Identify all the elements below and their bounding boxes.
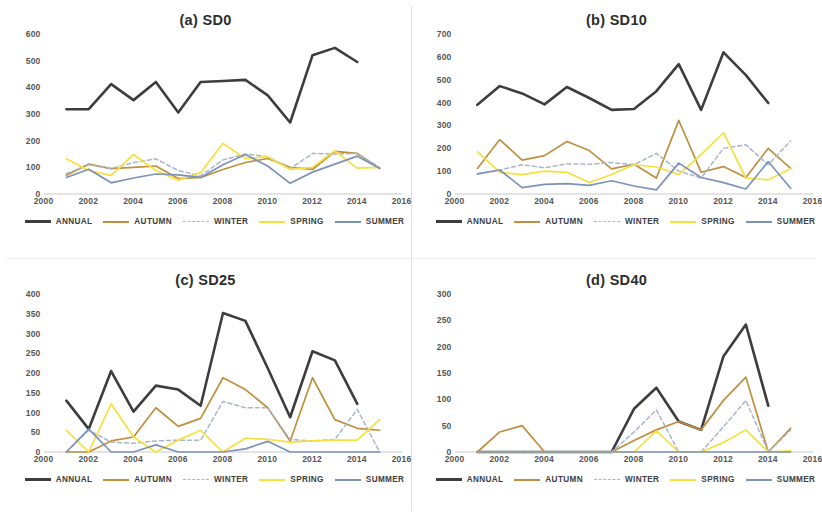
series-line-spring bbox=[477, 133, 790, 183]
x-axis-tick-label: 2008 bbox=[213, 196, 233, 206]
x-axis-tick-label: 2012 bbox=[713, 454, 733, 464]
legend-label: ANNUAL bbox=[467, 475, 504, 484]
y-axis-tick-label: 150 bbox=[437, 368, 452, 378]
x-axis-tick-label: 2010 bbox=[257, 196, 277, 206]
x-axis: 200020022004200620082010201220142016 bbox=[455, 194, 813, 210]
legend-item-annual[interactable]: ANNUAL bbox=[436, 475, 504, 484]
series-line-annual bbox=[477, 325, 768, 452]
legend-item-annual[interactable]: ANNUAL bbox=[25, 475, 93, 484]
legend: ANNUALAUTUMNWINTERSPRINGSUMMER bbox=[421, 217, 813, 226]
legend-item-winter[interactable]: WINTER bbox=[183, 217, 248, 226]
line-series-svg bbox=[44, 294, 402, 452]
y-axis-tick-label: 500 bbox=[26, 56, 41, 66]
y-axis-tick-label: 300 bbox=[437, 289, 452, 299]
x-axis-tick-label: 2006 bbox=[579, 196, 599, 206]
y-axis-tick-label: 600 bbox=[437, 52, 452, 62]
plot-wrapper: 0100200300400500600700 20002002200420062… bbox=[421, 34, 813, 226]
y-axis-tick-label: 400 bbox=[26, 82, 41, 92]
panel-title: (a) SD0 bbox=[0, 0, 411, 34]
legend-item-spring[interactable]: SPRING bbox=[670, 217, 735, 226]
legend-item-autumn[interactable]: AUTUMN bbox=[514, 217, 583, 226]
panel-b: (b) SD10 0100200300400500600700 20002002… bbox=[411, 0, 822, 260]
legend-label: SUMMER bbox=[366, 217, 405, 226]
plot-area: 0100200300400500600700 bbox=[421, 34, 813, 194]
y-axis-tick-label: 100 bbox=[26, 408, 41, 418]
x-axis-tick-label: 2000 bbox=[445, 196, 465, 206]
legend-item-annual[interactable]: ANNUAL bbox=[25, 217, 93, 226]
legend-item-autumn[interactable]: AUTUMN bbox=[514, 475, 583, 484]
y-axis-tick-label: 200 bbox=[437, 143, 452, 153]
x-axis: 200020022004200620082010201220142016 bbox=[455, 452, 813, 468]
y-axis-tick-label: 500 bbox=[437, 75, 452, 85]
legend-swatch-autumn-icon bbox=[514, 221, 540, 223]
legend-label: SPRING bbox=[290, 217, 324, 226]
y-axis-tick-label: 300 bbox=[26, 109, 41, 119]
legend-swatch-autumn-icon bbox=[514, 479, 540, 481]
y-axis-tick-label: 100 bbox=[26, 162, 41, 172]
x-axis: 200020022004200620082010201220142016 bbox=[44, 452, 402, 468]
x-axis-tick-label: 2010 bbox=[668, 196, 688, 206]
series-line-spring bbox=[66, 143, 379, 180]
legend: ANNUALAUTUMNWINTERSPRINGSUMMER bbox=[10, 217, 402, 226]
x-axis-tick-label: 2004 bbox=[123, 454, 143, 464]
series-layer bbox=[44, 294, 402, 452]
series-line-annual bbox=[66, 313, 357, 429]
legend-swatch-annual-icon bbox=[25, 220, 51, 223]
legend: ANNUALAUTUMNWINTERSPRINGSUMMER bbox=[421, 475, 813, 484]
legend-item-spring[interactable]: SPRING bbox=[670, 475, 735, 484]
panel-a: (a) SD0 0100200300400500600 200020022004… bbox=[0, 0, 411, 260]
series-line-spring bbox=[66, 404, 379, 452]
legend-swatch-autumn-icon bbox=[103, 479, 129, 481]
legend-label: WINTER bbox=[625, 217, 659, 226]
legend-item-annual[interactable]: ANNUAL bbox=[436, 217, 504, 226]
legend-item-summer[interactable]: SUMMER bbox=[746, 217, 816, 226]
x-axis-tick-label: 2014 bbox=[758, 196, 778, 206]
legend-swatch-spring-icon bbox=[259, 479, 285, 481]
x-axis-tick-label: 2016 bbox=[803, 196, 822, 206]
legend-item-spring[interactable]: SPRING bbox=[259, 217, 324, 226]
legend-swatch-spring-icon bbox=[670, 479, 696, 481]
legend-item-summer[interactable]: SUMMER bbox=[746, 475, 816, 484]
legend-label: SUMMER bbox=[366, 475, 405, 484]
legend-label: SPRING bbox=[701, 217, 735, 226]
y-axis-tick-label: 700 bbox=[437, 29, 452, 39]
y-axis-tick-label: 600 bbox=[26, 29, 41, 39]
legend-item-summer[interactable]: SUMMER bbox=[335, 475, 405, 484]
legend-item-spring[interactable]: SPRING bbox=[259, 475, 324, 484]
legend-item-summer[interactable]: SUMMER bbox=[335, 217, 405, 226]
x-axis-tick-label: 2012 bbox=[302, 196, 322, 206]
y-axis-tick-label: 200 bbox=[26, 368, 41, 378]
plot-wrapper: 050100150200250300350400 200020022004200… bbox=[10, 294, 402, 484]
plot-area: 0100200300400500600 bbox=[10, 34, 402, 194]
legend-item-autumn[interactable]: AUTUMN bbox=[103, 475, 172, 484]
x-axis-tick-label: 2006 bbox=[168, 454, 188, 464]
x-axis-tick-label: 2016 bbox=[803, 454, 822, 464]
x-axis-tick-label: 2002 bbox=[489, 196, 509, 206]
y-axis: 050100150200250300350400 bbox=[10, 294, 44, 452]
legend-swatch-winter-icon bbox=[594, 221, 620, 222]
legend-swatch-summer-icon bbox=[335, 479, 361, 481]
legend-item-winter[interactable]: WINTER bbox=[594, 217, 659, 226]
x-axis-tick-label: 2014 bbox=[347, 196, 367, 206]
legend-label: SPRING bbox=[290, 475, 324, 484]
legend-item-autumn[interactable]: AUTUMN bbox=[103, 217, 172, 226]
y-axis: 0100200300400500600700 bbox=[421, 34, 455, 194]
series-line-autumn bbox=[477, 120, 790, 178]
series-line-autumn bbox=[477, 377, 790, 452]
y-axis-tick-label: 350 bbox=[26, 309, 41, 319]
line-series-svg bbox=[455, 34, 813, 194]
series-layer bbox=[455, 34, 813, 194]
line-series-svg bbox=[455, 294, 813, 452]
legend-label: AUTUMN bbox=[134, 217, 172, 226]
legend-swatch-annual-icon bbox=[436, 478, 462, 481]
x-axis-tick-label: 2000 bbox=[445, 454, 465, 464]
legend-label: AUTUMN bbox=[134, 475, 172, 484]
y-axis-tick-label: 400 bbox=[437, 98, 452, 108]
legend-item-winter[interactable]: WINTER bbox=[183, 475, 248, 484]
legend-swatch-annual-icon bbox=[25, 478, 51, 481]
legend-item-winter[interactable]: WINTER bbox=[594, 475, 659, 484]
legend-swatch-summer-icon bbox=[746, 479, 772, 481]
y-axis-tick-label: 300 bbox=[437, 120, 452, 130]
plot-wrapper: 0100200300400500600 20002002200420062008… bbox=[10, 34, 402, 226]
x-axis-tick-label: 2000 bbox=[34, 196, 54, 206]
